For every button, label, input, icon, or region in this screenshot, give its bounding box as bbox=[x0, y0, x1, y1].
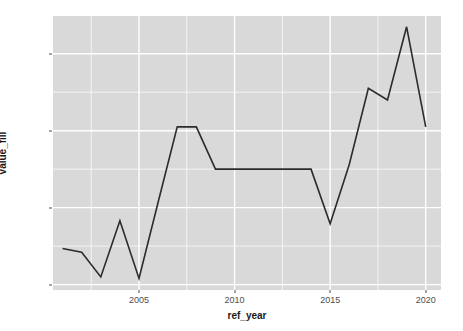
x-axis-tick-mark bbox=[425, 290, 426, 293]
x-axis-tick-label: 2015 bbox=[320, 296, 340, 305]
plot-svg bbox=[53, 16, 441, 290]
minor-gridlines bbox=[53, 16, 441, 290]
y-axis-tick-mark bbox=[49, 53, 52, 54]
x-axis-tick-label: 2010 bbox=[225, 296, 245, 305]
x-axis-tick-mark bbox=[234, 290, 235, 293]
y-axis-tick-mark bbox=[49, 130, 52, 131]
y-axis-tick-mark bbox=[49, 207, 52, 208]
x-axis-title: ref_year bbox=[53, 310, 441, 321]
x-axis-tick-mark bbox=[139, 290, 140, 293]
plot-panel bbox=[53, 16, 441, 290]
y-axis-tick-mark bbox=[49, 284, 52, 285]
x-axis-tick-label: 2020 bbox=[416, 296, 436, 305]
major-gridlines bbox=[53, 16, 441, 290]
y-axis-title-text: value_fill bbox=[0, 132, 8, 175]
chart-container: 4000500060007000 2005201020152020 ref_ye… bbox=[0, 0, 463, 331]
x-axis-tick-mark bbox=[330, 290, 331, 293]
x-axis-tick-label: 2005 bbox=[129, 296, 149, 305]
data-line-series-value-fill bbox=[63, 27, 426, 279]
